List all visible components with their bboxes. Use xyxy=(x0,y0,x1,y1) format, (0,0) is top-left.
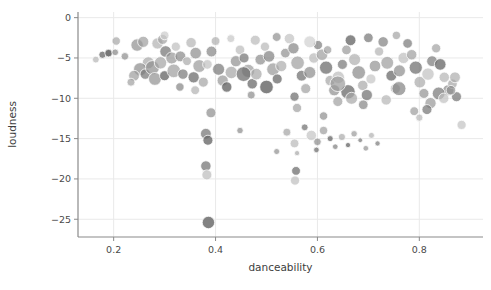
data-point xyxy=(191,86,200,95)
data-point xyxy=(294,151,299,156)
data-point xyxy=(263,51,275,63)
data-point xyxy=(434,59,446,71)
x-tick-label: 0.6 xyxy=(310,244,325,255)
data-point xyxy=(378,37,388,47)
data-point xyxy=(186,37,196,47)
data-point xyxy=(274,149,280,155)
data-point xyxy=(304,66,316,78)
x-tick-label: 0.4 xyxy=(208,244,223,255)
x-tick-label: 0.8 xyxy=(412,244,427,255)
data-point xyxy=(188,72,199,83)
data-point xyxy=(403,39,413,49)
data-point xyxy=(345,35,356,46)
data-point xyxy=(222,82,232,92)
y-tick-label: −15 xyxy=(51,133,71,144)
data-point xyxy=(239,53,249,63)
data-point xyxy=(366,74,376,84)
data-point xyxy=(272,74,282,84)
data-point xyxy=(358,138,363,143)
data-point xyxy=(319,112,327,120)
data-point xyxy=(284,33,294,43)
data-point xyxy=(333,97,343,107)
data-point xyxy=(301,84,311,94)
y-tick-label: −10 xyxy=(51,93,71,104)
data-point xyxy=(260,42,269,51)
data-point xyxy=(190,47,202,59)
data-point xyxy=(368,132,374,138)
data-point xyxy=(361,89,372,100)
data-point xyxy=(291,56,305,70)
data-point xyxy=(319,126,327,134)
data-point xyxy=(237,127,243,133)
data-point xyxy=(225,66,237,78)
data-point xyxy=(290,92,299,101)
data-point xyxy=(332,144,338,150)
data-point xyxy=(288,43,299,54)
y-tick-label: 0 xyxy=(65,12,71,23)
data-point xyxy=(160,31,169,40)
data-point xyxy=(202,170,212,180)
y-tick-label: −25 xyxy=(51,214,71,225)
data-point xyxy=(105,49,113,57)
data-point xyxy=(450,72,461,83)
data-point xyxy=(432,44,441,53)
data-point xyxy=(439,72,449,82)
data-point xyxy=(392,31,400,39)
data-point xyxy=(319,61,332,74)
x-tick-label: 0.2 xyxy=(106,244,121,255)
data-point xyxy=(121,53,129,61)
data-point xyxy=(127,78,135,86)
data-point xyxy=(381,95,391,105)
data-point xyxy=(406,50,416,60)
data-point xyxy=(422,68,434,80)
data-point xyxy=(206,46,217,57)
data-point xyxy=(369,60,381,72)
data-point xyxy=(416,114,423,121)
data-point xyxy=(290,176,299,185)
data-point xyxy=(154,57,166,69)
data-point xyxy=(112,37,120,45)
data-point xyxy=(381,56,394,69)
data-point xyxy=(112,49,119,56)
scatter-plot: 0.20.40.60.8 0−5−10−15−20−25 danceabilit… xyxy=(0,0,491,290)
data-point xyxy=(183,57,192,66)
data-point xyxy=(290,139,299,148)
data-point xyxy=(349,54,361,66)
data-point xyxy=(327,136,333,142)
data-point xyxy=(457,120,466,129)
data-point xyxy=(138,36,149,47)
data-point xyxy=(203,60,213,70)
data-point xyxy=(227,35,235,43)
data-point xyxy=(178,69,188,79)
data-point xyxy=(352,66,366,80)
data-point xyxy=(330,76,346,92)
data-point xyxy=(364,33,374,43)
data-point xyxy=(351,131,357,137)
data-point xyxy=(446,85,456,95)
y-tick-label: −5 xyxy=(57,52,71,63)
data-point xyxy=(301,124,308,131)
data-point xyxy=(345,142,350,147)
data-point xyxy=(422,105,432,115)
data-point xyxy=(314,138,322,146)
data-point xyxy=(213,63,225,75)
data-point xyxy=(342,45,352,55)
data-point xyxy=(292,166,301,175)
data-point xyxy=(375,141,380,146)
chart-container: 0.20.40.60.8 0−5−10−15−20−25 danceabilit… xyxy=(0,0,491,290)
data-point xyxy=(358,100,368,110)
data-point xyxy=(304,36,316,48)
data-point xyxy=(176,83,184,91)
y-tick-label: −20 xyxy=(51,173,71,184)
data-point xyxy=(314,147,320,153)
data-point xyxy=(337,59,347,69)
data-point xyxy=(236,67,251,82)
data-point xyxy=(203,135,213,145)
data-point xyxy=(338,133,345,140)
data-point xyxy=(276,60,287,71)
data-point xyxy=(211,37,220,46)
data-point xyxy=(272,33,281,42)
data-point xyxy=(198,77,208,87)
data-point xyxy=(202,216,214,228)
data-point xyxy=(419,88,429,98)
